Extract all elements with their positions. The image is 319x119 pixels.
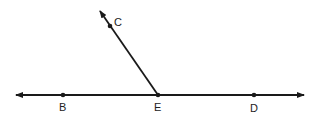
point-c	[108, 24, 113, 29]
label-b: B	[59, 101, 66, 113]
label-d: D	[250, 102, 258, 114]
ray-ec	[100, 11, 158, 95]
label-e: E	[154, 101, 161, 113]
point-e	[156, 93, 161, 98]
geometry-diagram: B E D C	[0, 0, 319, 119]
label-c: C	[114, 16, 122, 28]
point-b	[61, 93, 66, 98]
diagram-canvas: B E D C	[0, 0, 319, 119]
point-d	[252, 93, 257, 98]
